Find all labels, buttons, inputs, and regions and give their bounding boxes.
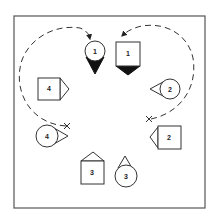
player-label: 1 [93, 48, 97, 55]
player-label: 3 [90, 169, 94, 176]
player-label: 2 [168, 86, 172, 93]
player-label: 3 [124, 173, 128, 180]
play-diagram: 1 1 4 2 4 2 3 3 [0, 0, 219, 221]
player-label: 2 [167, 134, 171, 141]
diagram-frame [14, 16, 205, 208]
player-label: 4 [47, 85, 51, 92]
player-label: 1 [126, 50, 130, 57]
player-label: 4 [45, 133, 49, 140]
